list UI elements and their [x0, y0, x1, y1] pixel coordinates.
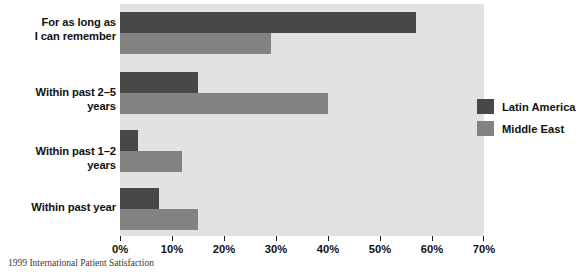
axis-tick-mark — [328, 236, 329, 241]
legend-label-middle-east: Middle East — [502, 123, 564, 135]
legend-swatch-latin-america — [477, 99, 494, 114]
plot-area: Latin America Middle East — [120, 4, 484, 236]
axis-tick-mark — [172, 236, 173, 241]
axis-tick-label: 50% — [360, 243, 400, 255]
bar-latin-america-0 — [120, 12, 416, 33]
category-label-3: Within past year — [4, 201, 116, 215]
legend-item-middle-east: Middle East — [477, 119, 576, 138]
axis-tick-label: 60% — [412, 243, 452, 255]
chart-caption: 1999 International Patient Satisfaction — [8, 258, 154, 268]
bar-middle-east-0 — [120, 33, 271, 54]
axis-tick-label: 40% — [308, 243, 348, 255]
legend-item-latin-america: Latin America — [477, 97, 576, 116]
legend-label-latin-america: Latin America — [502, 101, 576, 113]
bar-latin-america-3 — [120, 188, 159, 209]
axis-tick-mark — [380, 236, 381, 241]
axis-tick-mark — [483, 236, 484, 241]
axis-tick-mark — [432, 236, 433, 241]
axis-tick-mark — [224, 236, 225, 241]
category-label-2: Within past 1–2 years — [4, 145, 116, 172]
category-label-line: Within past year — [31, 201, 116, 213]
axis-tick-label: 30% — [256, 243, 296, 255]
chart-legend: Latin America Middle East — [477, 97, 576, 141]
bar-latin-america-2 — [120, 130, 138, 151]
category-label-1: Within past 2–5 years — [4, 86, 116, 113]
axis-tick-mark — [276, 236, 277, 241]
bar-latin-america-1 — [120, 72, 198, 93]
axis-tick-mark — [120, 236, 121, 241]
category-axis-labels: For as long as I can remember Within pas… — [0, 4, 116, 236]
bar-middle-east-2 — [120, 151, 182, 172]
legend-swatch-middle-east — [477, 121, 494, 136]
category-label-0: For as long as I can remember — [4, 16, 116, 43]
bar-middle-east-3 — [120, 209, 198, 230]
axis-tick-label: 0% — [100, 243, 140, 255]
axis-tick-label: 70% — [464, 243, 504, 255]
bar-middle-east-1 — [120, 93, 328, 114]
category-label-line: I can remember — [35, 30, 116, 42]
category-label-line: For as long as — [42, 16, 116, 28]
axis-tick-label: 10% — [152, 243, 192, 255]
axis-tick-label: 20% — [204, 243, 244, 255]
category-label-line: Within past 2–5 years — [36, 86, 116, 112]
value-axis: 0%10%20%30%40%50%60%70% — [120, 236, 484, 260]
category-label-line: Within past 1–2 years — [36, 145, 116, 171]
